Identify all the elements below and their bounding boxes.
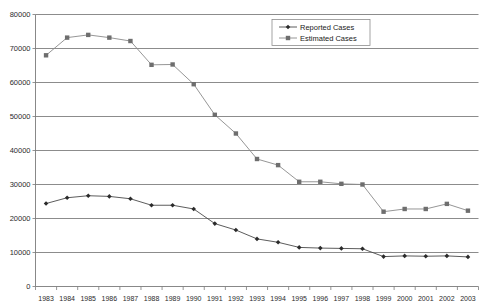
chart-legend: Reported CasesEstimated Cases (272, 20, 370, 46)
data-point-marker (423, 254, 428, 259)
x-tick-label: 1998 (355, 295, 371, 302)
data-point-marker (128, 39, 132, 43)
data-point-marker (276, 240, 281, 245)
x-tick-label: 1999 (376, 295, 392, 302)
data-point-marker (402, 207, 406, 211)
y-tick-label: 30000 (10, 180, 31, 189)
data-point-marker (65, 195, 70, 200)
data-point-marker (149, 63, 153, 67)
legend-label: Estimated Cases (300, 34, 357, 43)
y-tick-label: 70000 (10, 44, 31, 53)
x-tick-marks-group (36, 287, 479, 291)
data-point-marker (360, 246, 365, 251)
y-axis-tick-labels: 0100002000030000400005000060000700008000… (10, 10, 31, 291)
data-point-marker (339, 182, 343, 186)
series-reported-cases (44, 193, 471, 259)
y-tick-label: 50000 (10, 112, 31, 121)
series-estimated-cases (44, 33, 470, 214)
data-point-marker (107, 194, 112, 199)
y-tick-label: 80000 (10, 10, 31, 19)
data-point-marker (255, 237, 260, 242)
x-tick-label: 1991 (207, 295, 223, 302)
x-tick-label: 2002 (439, 295, 455, 302)
x-tick-label: 2003 (460, 295, 476, 302)
chart-canvas: 0100002000030000400005000060000700008000… (0, 0, 487, 308)
x-tick-label: 1990 (186, 295, 202, 302)
y-tick-label: 40000 (10, 146, 31, 155)
series-group (44, 33, 471, 260)
data-point-marker (213, 113, 217, 117)
data-point-marker (128, 196, 133, 201)
y-tick-label: 20000 (10, 214, 31, 223)
data-point-marker (445, 254, 450, 259)
data-point-marker (170, 62, 174, 66)
data-point-marker (466, 255, 471, 260)
series-line (46, 196, 468, 257)
data-point-marker (44, 201, 49, 206)
data-point-marker (86, 193, 91, 198)
x-tick-label: 1989 (165, 295, 181, 302)
data-point-marker (318, 180, 322, 184)
data-point-marker (44, 53, 48, 57)
x-tick-label: 1995 (291, 295, 307, 302)
x-tick-label: 1994 (270, 295, 286, 302)
series-line (46, 35, 468, 212)
x-tick-label: 1984 (59, 295, 75, 302)
x-tick-label: 2000 (397, 295, 413, 302)
data-point-marker (107, 35, 111, 39)
data-point-marker (297, 180, 301, 184)
y-tick-label: 0 (26, 282, 30, 291)
data-point-marker (339, 246, 344, 251)
x-tick-label: 1996 (312, 295, 328, 302)
data-point-marker (381, 254, 386, 259)
data-point-marker (149, 203, 154, 208)
data-point-marker (65, 35, 69, 39)
data-point-marker (360, 182, 364, 186)
data-point-marker (170, 203, 175, 208)
x-tick-label: 1985 (80, 295, 96, 302)
line-chart: 0100002000030000400005000060000700008000… (0, 0, 487, 308)
y-tick-label: 60000 (10, 78, 31, 87)
data-point-marker (381, 210, 385, 214)
data-point-marker (234, 131, 238, 135)
data-point-marker (424, 207, 428, 211)
data-point-marker (255, 157, 259, 161)
x-tick-label: 1993 (249, 295, 265, 302)
gridlines-group (36, 15, 479, 253)
x-tick-label: 1997 (334, 295, 350, 302)
data-point-marker (445, 202, 449, 206)
data-point-marker (234, 228, 239, 233)
data-point-marker (402, 254, 407, 259)
x-tick-label: 1983 (38, 295, 54, 302)
x-tick-label: 1988 (144, 295, 160, 302)
x-tick-label: 2001 (418, 295, 434, 302)
data-point-marker (276, 163, 280, 167)
y-tick-label: 10000 (10, 248, 31, 257)
x-axis-tick-labels: 1983198419851986198719881989199019911992… (38, 295, 476, 302)
data-point-marker (192, 82, 196, 86)
data-point-marker (466, 208, 470, 212)
data-point-marker (297, 245, 302, 250)
data-point-marker (318, 246, 323, 251)
legend-marker (286, 36, 290, 40)
x-tick-label: 1987 (123, 295, 139, 302)
x-tick-label: 1992 (228, 295, 244, 302)
x-tick-label: 1986 (102, 295, 118, 302)
data-point-marker (86, 33, 90, 37)
legend-label: Reported Cases (300, 23, 354, 32)
